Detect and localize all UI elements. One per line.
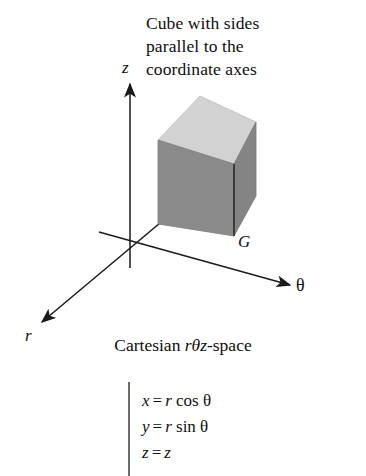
equation-rhs-variable: z: [164, 443, 171, 462]
equation-operator: =: [150, 391, 166, 410]
equation-rhs-function: sin: [176, 417, 196, 436]
equation-rhs-argument: θ: [203, 391, 211, 410]
equation-lhs: x: [142, 391, 150, 410]
equation-operator: =: [150, 417, 166, 436]
equation-row: y=r sin θ: [142, 414, 211, 440]
caption-symbols: rθz: [185, 335, 207, 355]
equation-rhs-variable: r: [165, 391, 172, 410]
figure-caption: Cartesian rθz-space: [0, 335, 366, 356]
title-line-3: coordinate axes: [146, 58, 356, 81]
title-line-2: parallel to the: [146, 35, 356, 58]
cylindrical-coordinates-figure: Cube with sides parallel to the coordina…: [0, 0, 366, 476]
figure-title: Cube with sides parallel to the coordina…: [146, 12, 356, 81]
equation-operator: =: [149, 443, 165, 462]
theta-axis-line: [99, 232, 290, 285]
z-axis-label: z: [122, 58, 129, 78]
equation-rhs-argument: θ: [200, 417, 208, 436]
equation-lhs: z: [142, 443, 149, 462]
caption-prefix: Cartesian: [114, 335, 184, 355]
equation-lhs: y: [142, 417, 150, 436]
solid-region-label: G: [238, 232, 250, 252]
theta-axis-label: θ: [296, 275, 305, 296]
equation-row: x=r cos θ: [142, 388, 211, 414]
caption-suffix: -space: [207, 335, 252, 355]
equation-rhs-function: cos: [176, 391, 199, 410]
equation-rhs-variable: r: [165, 417, 172, 436]
coordinate-transform-equations: x=r cos θ y=r sin θ z=z: [142, 388, 211, 466]
equation-row: z=z: [142, 440, 211, 466]
title-line-1: Cube with sides: [146, 12, 356, 35]
